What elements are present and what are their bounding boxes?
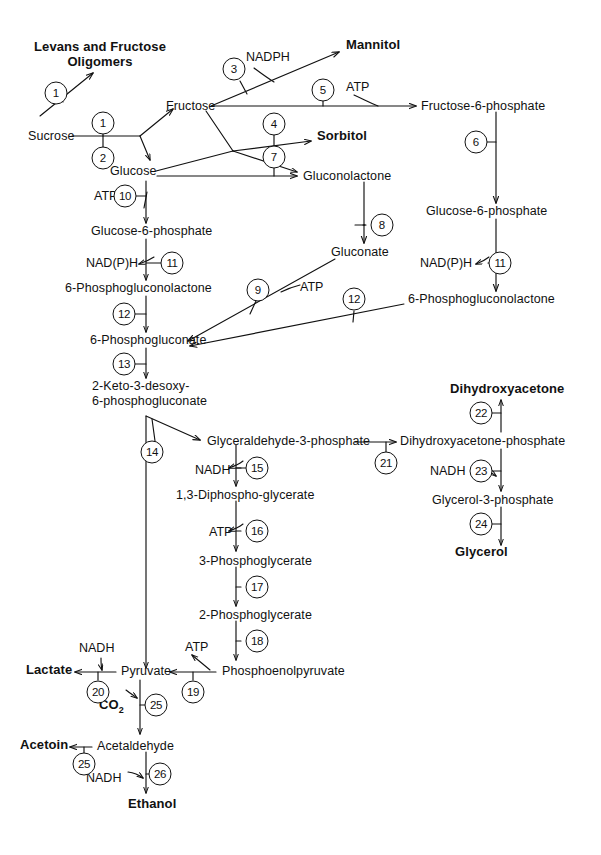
metabolite-3-phosphoglycerate: 3-Phosphoglycerate: [199, 554, 312, 568]
enzyme-6[interactable]: 6: [465, 131, 488, 154]
enzyme-2[interactable]: 2: [92, 147, 115, 170]
co2-subscript: 2: [119, 705, 124, 715]
metabolite-glucose: Glucose: [110, 164, 157, 178]
pathway-diagram-page: Levans and Fructose Oligomers Sucrose Fr…: [0, 0, 601, 855]
metabolite-fructose-6-phosphate: Fructose-6-phosphate: [421, 99, 545, 113]
enzyme-5[interactable]: 5: [312, 79, 335, 102]
enzyme-3[interactable]: 3: [223, 58, 246, 81]
metabolite-gluconate: Gluconate: [331, 245, 389, 259]
enzyme-9[interactable]: 9: [247, 279, 270, 302]
metabolite-glycerol: Glycerol: [455, 545, 508, 559]
metabolite-ethanol: Ethanol: [128, 797, 176, 811]
metabolite-mannitol: Mannitol: [346, 38, 400, 52]
metabolite-acetaldehyde: Acetaldehyde: [97, 739, 174, 753]
enzyme-20[interactable]: 20: [87, 681, 110, 704]
enzyme-17[interactable]: 17: [246, 576, 269, 599]
metabolite-2-phosphoglycerate: 2-Phosphoglycerate: [199, 608, 312, 622]
metabolite-levans: Levans and Fructose Oligomers: [34, 39, 166, 69]
cofactor-nadh-15: NADH: [195, 463, 230, 477]
enzyme-13[interactable]: 13: [113, 353, 136, 376]
cofactor-atp-19: ATP: [185, 640, 208, 654]
enzyme-1a[interactable]: 1: [45, 82, 68, 105]
metabolite-kdpg: 2-Keto-3-desoxy- 6-phosphogluconate: [92, 379, 207, 409]
metabolite-glucose-6-phosphate-left: Glucose-6-phosphate: [91, 224, 212, 238]
enzyme-22[interactable]: 22: [470, 402, 493, 425]
metabolite-1-3-diphosphoglycerate: 1,3-Diphospho-glycerate: [176, 488, 315, 502]
metabolite-6-phosphogluconate: 6-Phosphogluconate: [90, 333, 206, 347]
metabolite-acetoin: Acetoin: [20, 738, 68, 752]
enzyme-11-right[interactable]: 11: [489, 252, 512, 275]
cofactor-nadph-3: NADPH: [246, 50, 290, 64]
metabolite-fructose: Fructose: [166, 99, 215, 113]
enzyme-7[interactable]: 7: [263, 146, 286, 169]
metabolite-glucose-6-phosphate-right: Glucose-6-phosphate: [426, 204, 547, 218]
metabolite-sucrose: Sucrose: [28, 129, 75, 143]
enzyme-8[interactable]: 8: [371, 214, 394, 237]
enzyme-12-left[interactable]: 12: [113, 303, 136, 326]
enzyme-4[interactable]: 4: [263, 113, 286, 136]
metabolite-glycerol-3-phosphate: Glycerol-3-phosphate: [432, 493, 554, 507]
cofactor-nadph-11-left: NAD(P)H: [86, 256, 138, 270]
enzyme-10[interactable]: 10: [114, 185, 137, 208]
metabolite-gluconolactone: Gluconolactone: [303, 169, 391, 183]
metabolite-dihydroxyacetone-phosphate: Dihydroxyacetone-phosphate: [400, 434, 565, 448]
enzyme-15[interactable]: 15: [246, 457, 269, 480]
enzyme-26[interactable]: 26: [149, 763, 172, 786]
metabolite-phosphoenolpyruvate: Phosphoenolpyruvate: [222, 664, 345, 678]
cofactor-nadh-20: NADH: [79, 641, 114, 655]
metabolite-lactate: Lactate: [26, 663, 72, 677]
enzyme-23[interactable]: 23: [470, 460, 493, 483]
enzyme-16[interactable]: 16: [246, 520, 269, 543]
enzyme-11-left[interactable]: 11: [161, 252, 184, 275]
metabolite-6-phosphogluconolactone-right: 6-Phosphogluconolactone: [408, 292, 555, 306]
enzyme-14[interactable]: 14: [141, 441, 164, 464]
metabolite-6-phosphogluconolactone-left: 6-Phosphogluconolactone: [65, 281, 212, 295]
enzyme-12-right[interactable]: 12: [343, 288, 366, 311]
metabolite-glyceraldehyde-3-phosphate: Glyceraldehyde-3-phosphate: [207, 434, 370, 448]
enzyme-18[interactable]: 18: [246, 630, 269, 653]
metabolite-pyruvate: Pyruvate: [121, 664, 171, 678]
enzyme-24[interactable]: 24: [470, 513, 493, 536]
cofactor-atp-5: ATP: [346, 80, 369, 94]
pathway-arrow-layer: [0, 0, 601, 855]
metabolite-dihydroxyacetone: Dihydroxyacetone: [450, 382, 564, 396]
enzyme-1b[interactable]: 1: [92, 112, 115, 135]
cofactor-nadph-11-right: NAD(P)H: [420, 256, 472, 270]
cofactor-atp-9: ATP: [300, 280, 323, 294]
metabolite-sorbitol: Sorbitol: [317, 129, 367, 143]
enzyme-25a[interactable]: 25: [145, 694, 168, 717]
enzyme-19[interactable]: 19: [182, 681, 205, 704]
cofactor-nadh-26: NADH: [86, 771, 121, 785]
cofactor-atp-16: ATP: [209, 525, 232, 539]
cofactor-nadh-23: NADH: [430, 464, 465, 478]
enzyme-21[interactable]: 21: [375, 452, 398, 475]
enzyme-25b[interactable]: 25: [73, 753, 96, 776]
